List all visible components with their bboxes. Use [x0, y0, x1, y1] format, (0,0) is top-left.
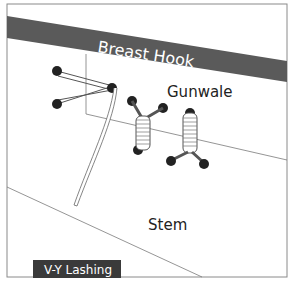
v-y-lashing-diagram: Breast Hook Gunwale Stem V-Y Lashing — [0, 0, 291, 286]
stem-label: Stem — [148, 216, 187, 234]
title-label: V-Y Lashing — [44, 263, 112, 277]
gunwale-label: Gunwale — [167, 83, 233, 101]
